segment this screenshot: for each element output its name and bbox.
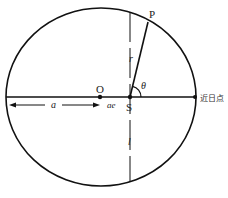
orbit-diagram: P O S r θ a ae l 近日点	[0, 0, 228, 198]
arrowhead-left	[9, 103, 16, 108]
arrowhead-right	[93, 103, 100, 108]
label-a: a	[51, 99, 56, 110]
label-o: O	[96, 83, 104, 95]
label-ae: ae	[107, 100, 116, 110]
focus-point	[128, 95, 132, 99]
label-l: l	[128, 136, 131, 147]
label-p: P	[149, 8, 155, 20]
label-perihelion: 近日点	[200, 93, 224, 103]
perihelion-point	[193, 95, 197, 99]
theta-arc	[133, 86, 141, 97]
label-s: S	[126, 101, 132, 113]
label-theta: θ	[141, 80, 146, 91]
center-point	[98, 95, 102, 99]
label-r: r	[129, 53, 133, 64]
